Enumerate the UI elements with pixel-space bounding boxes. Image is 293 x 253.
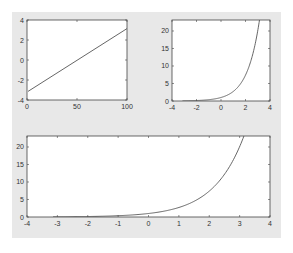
x-tick-label: -2: [193, 104, 199, 111]
x-tick-label: 0: [25, 103, 29, 110]
x-tick-label: 0: [219, 104, 223, 111]
x-tick-label: 4: [268, 104, 272, 111]
y-tick-label: 4: [20, 17, 24, 24]
y-tick-label: 2: [20, 37, 24, 44]
x-tick-label: 2: [244, 104, 248, 111]
y-tick-label: 5: [165, 80, 169, 87]
y-tick-label: 0: [20, 57, 24, 64]
y-tick-label: 15: [16, 161, 24, 168]
axes-box: [172, 20, 270, 101]
x-tick-label: 50: [73, 103, 81, 110]
y-tick-label: 15: [161, 45, 169, 52]
x-tick-label: 100: [121, 103, 133, 110]
axes-top-right: -4-202405101520: [161, 20, 272, 111]
x-tick-label: 1: [177, 220, 181, 227]
axes-bottom-wide: -4-3-2-10123405101520: [16, 136, 272, 227]
y-tick-label: -2: [18, 77, 24, 84]
x-tick-label: 2: [207, 220, 211, 227]
y-tick-label: 10: [16, 178, 24, 185]
y-tick-label: -4: [18, 97, 24, 104]
x-tick-label: -3: [54, 220, 60, 227]
axes-box: [27, 136, 270, 217]
y-tick-label: 0: [20, 214, 24, 221]
x-tick-label: 0: [147, 220, 151, 227]
x-tick-label: 4: [268, 220, 272, 227]
y-tick-label: 10: [161, 62, 169, 69]
y-tick-label: 20: [16, 143, 24, 150]
x-tick-label: 3: [238, 220, 242, 227]
x-tick-label: -2: [85, 220, 91, 227]
y-tick-label: 5: [20, 196, 24, 203]
x-tick-label: -4: [24, 220, 30, 227]
figure-plots: 050100-4-2024-4-202405101520-4-3-2-10123…: [0, 0, 293, 253]
x-tick-label: -1: [115, 220, 121, 227]
axes-top-left: 050100-4-2024: [18, 17, 133, 111]
y-tick-label: 20: [161, 27, 169, 34]
y-tick-label: 0: [165, 98, 169, 105]
x-tick-label: -4: [169, 104, 175, 111]
